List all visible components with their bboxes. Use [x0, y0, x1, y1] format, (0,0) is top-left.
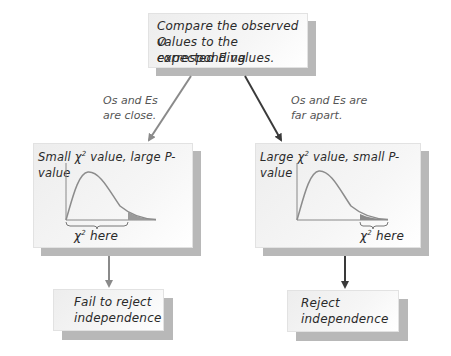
right-brace: [360, 222, 388, 229]
diagram-graphics: [0, 0, 451, 356]
right-chi-square-curve: [297, 163, 388, 229]
left-chi-square-curve: [66, 163, 156, 229]
right-branch-arrow: [245, 76, 281, 140]
left-branch-arrow: [149, 76, 191, 140]
left-brace: [66, 222, 128, 229]
